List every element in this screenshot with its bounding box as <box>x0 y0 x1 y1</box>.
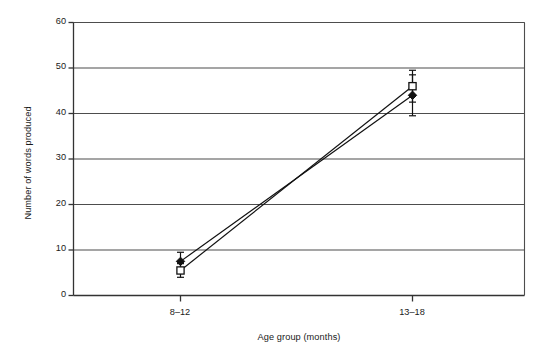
gridlines <box>74 23 525 251</box>
marker-open-square-0 <box>177 267 184 274</box>
marker-filled-diamond-1 <box>408 91 416 99</box>
plot-area <box>0 0 541 357</box>
chart-figure: Number of words produced 60 50 40 30 20 … <box>0 0 541 357</box>
marker-open-square-1 <box>409 83 416 90</box>
axis-ticks <box>69 23 413 302</box>
marker-filled-diamond-0 <box>176 257 184 265</box>
error-bars <box>177 70 416 277</box>
